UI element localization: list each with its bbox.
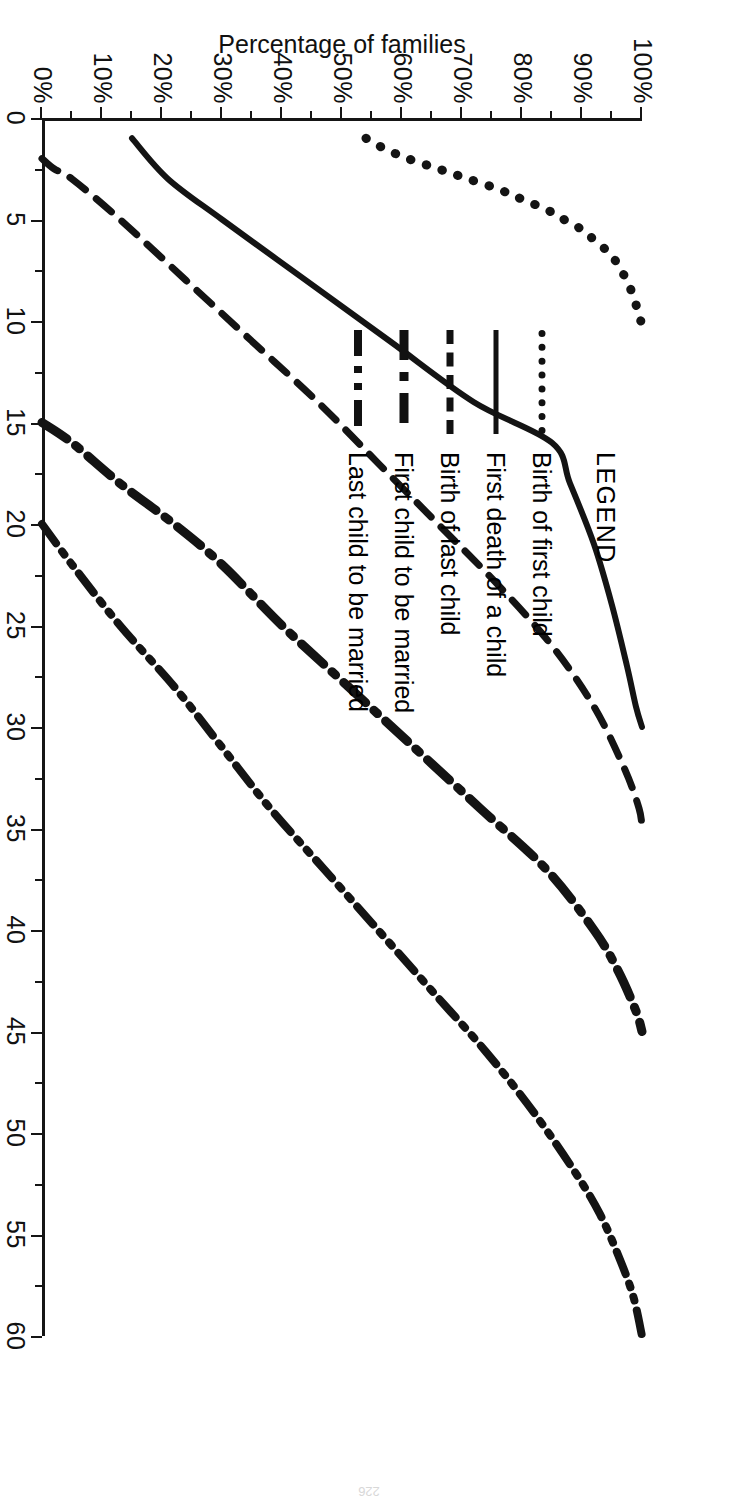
- dash-dot-line-icon-stroke: [400, 330, 409, 434]
- y-tick-label: 20%: [148, 52, 177, 104]
- y-tick-minor: [130, 111, 132, 118]
- chart-figure: 051015202530354045505560 0%10%20%30%40%5…: [0, 0, 738, 1503]
- x-tick-major: [31, 1235, 42, 1237]
- y-tick-label: 30%: [208, 52, 237, 104]
- legend-entry-label: Birth of first child: [528, 452, 557, 637]
- y-tick-major: [520, 107, 522, 118]
- dashed-line-icon-stroke: [447, 330, 454, 434]
- y-tick-major: [460, 107, 462, 118]
- x-tick-major: [31, 626, 42, 628]
- y-tick-minor: [370, 111, 372, 118]
- x-tick-major: [31, 829, 42, 831]
- series-line-birth-of-first-child: [366, 138, 641, 321]
- y-tick-minor: [610, 111, 612, 118]
- solid-line-icon-stroke: [494, 330, 499, 434]
- x-tick-major: [31, 1133, 42, 1135]
- x-tick-major: [31, 321, 42, 323]
- y-tick-minor: [430, 111, 432, 118]
- x-tick-label: 40: [1, 916, 30, 945]
- y-tick-minor: [490, 111, 492, 118]
- x-tick-minor: [35, 778, 42, 780]
- legend-title: LEGEND: [591, 330, 620, 890]
- legend: LEGEND Birth of first childFirst death o…: [335, 330, 620, 890]
- legend-entry-label: Birth of last child: [436, 452, 465, 635]
- y-tick-minor: [550, 111, 552, 118]
- x-tick-minor: [35, 1184, 42, 1186]
- x-tick-major: [31, 727, 42, 729]
- y-tick-minor: [190, 111, 192, 118]
- x-tick-minor: [35, 1082, 42, 1084]
- y-tick-label: 10%: [88, 52, 117, 104]
- x-tick-minor: [35, 676, 42, 678]
- y-tick-label: 40%: [268, 52, 297, 104]
- solid-line-icon: [491, 330, 501, 434]
- y-tick-minor: [310, 111, 312, 118]
- legend-entry: Birth of first child: [519, 330, 565, 890]
- x-tick-label: 35: [1, 814, 30, 843]
- dash-dot-line-icon: [399, 330, 409, 434]
- y-tick-major: [40, 107, 42, 118]
- y-tick-label: 80%: [508, 52, 537, 104]
- x-tick-minor: [35, 575, 42, 577]
- x-tick-label: 30: [1, 713, 30, 742]
- x-tick-label: 60: [1, 1322, 30, 1351]
- legend-entry-label: First child to be married: [390, 452, 419, 713]
- dash-dot-dot-line-icon: [353, 330, 363, 434]
- x-tick-minor: [35, 473, 42, 475]
- y-tick-major: [100, 107, 102, 118]
- y-tick-major: [220, 107, 222, 118]
- dotted-line-icon: [537, 330, 547, 434]
- legend-entry-label: First death of a child: [482, 452, 511, 677]
- y-tick-label: 70%: [448, 52, 477, 104]
- legend-entry: First child to be married: [381, 330, 427, 890]
- x-tick-minor: [35, 372, 42, 374]
- x-tick-label: 25: [1, 611, 30, 640]
- x-tick-label: 15: [1, 408, 30, 437]
- legend-entry-list: Birth of first childFirst death of a chi…: [335, 330, 565, 890]
- x-tick-major: [31, 220, 42, 222]
- x-tick-label: 20: [1, 510, 30, 539]
- x-tick-label: 55: [1, 1220, 30, 1249]
- x-tick-major: [31, 1032, 42, 1034]
- x-tick-label: 0: [1, 111, 30, 125]
- y-tick-minor: [70, 111, 72, 118]
- rotated-figure-container: 051015202530354045505560 0%10%20%30%40%5…: [0, 0, 738, 1503]
- y-tick-label: 90%: [568, 52, 597, 104]
- x-tick-label: 45: [1, 1017, 30, 1046]
- x-tick-minor: [35, 1285, 42, 1287]
- x-tick-minor: [35, 270, 42, 272]
- x-tick-major: [31, 118, 42, 120]
- x-tick-label: 10: [1, 307, 30, 336]
- x-tick-minor: [35, 169, 42, 171]
- x-tick-major: [31, 930, 42, 932]
- legend-entry-label: Last child to be married: [344, 452, 373, 712]
- y-tick-label: 60%: [388, 52, 417, 104]
- x-tick-minor: [35, 879, 42, 881]
- y-tick-major: [640, 107, 642, 118]
- y-tick-label: 0%: [28, 67, 57, 104]
- dashed-line-icon: [445, 330, 455, 434]
- y-tick-label: 50%: [328, 52, 357, 104]
- page-number: 226: [358, 1484, 380, 1499]
- x-tick-label: 50: [1, 1119, 30, 1148]
- y-tick-major: [160, 107, 162, 118]
- y-tick-major: [580, 107, 582, 118]
- y-tick-major: [280, 107, 282, 118]
- x-tick-major: [31, 1336, 42, 1338]
- y-tick-minor: [250, 111, 252, 118]
- dotted-line-icon-stroke: [539, 330, 546, 434]
- x-tick-minor: [35, 981, 42, 983]
- legend-entry: First death of a child: [473, 330, 519, 890]
- y-axis-title: Percentage of families: [42, 30, 642, 59]
- x-tick-label: 5: [1, 212, 30, 226]
- legend-entry: Birth of last child: [427, 330, 473, 890]
- y-tick-major: [400, 107, 402, 118]
- dash-dot-dot-line-icon-stroke: [354, 330, 362, 434]
- legend-entry: Last child to be married: [335, 330, 381, 890]
- y-tick-major: [340, 107, 342, 118]
